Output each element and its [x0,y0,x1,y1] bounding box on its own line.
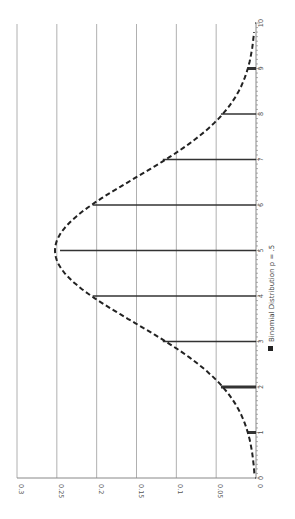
category-tick-labels: 012345678910 [257,19,265,480]
value-tick: 0.15 [137,484,145,498]
category-tick: 4 [257,294,265,298]
value-tick: 0.2 [97,484,105,494]
value-tick: 0 [256,484,264,488]
binomial-chart: 00.050.10.150.20.250.3 012345678910 Bino… [0,0,295,519]
category-tick: 6 [257,203,265,207]
category-tick: 2 [257,385,265,389]
legend-swatch [268,346,273,351]
legend: Binomial Distribution p = .5 [268,245,276,351]
value-tick-labels: 00.050.10.150.20.250.3 [17,484,264,498]
category-tick: 8 [257,112,265,116]
category-tick: 7 [257,157,265,161]
category-tick: 5 [257,248,265,252]
category-tick: 10 [257,19,265,27]
dashed-curve [55,32,254,473]
bars [60,23,256,478]
category-tick: 3 [257,339,265,343]
value-tick: 0.05 [216,484,224,498]
category-tick: 9 [257,66,265,70]
value-tick: 0.3 [17,484,25,494]
category-tick: 0 [257,476,265,480]
legend-label: Binomial Distribution p = .5 [268,245,276,342]
value-tick: 0.1 [176,484,184,494]
category-tick: 1 [257,430,265,434]
value-tick: 0.25 [57,484,65,498]
